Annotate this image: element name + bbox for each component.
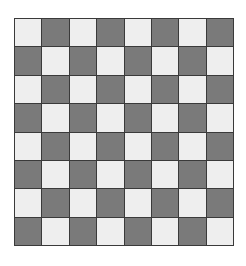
board-square-r1-c2[interactable]	[70, 47, 96, 74]
board-square-r5-c4[interactable]	[125, 161, 151, 188]
board-square-r0-c0[interactable]	[15, 19, 41, 46]
board-square-r6-c2[interactable]	[70, 189, 96, 216]
board-square-r7-c7[interactable]	[207, 218, 233, 245]
board-square-r2-c0[interactable]	[15, 76, 41, 103]
board-square-r1-c7[interactable]	[207, 47, 233, 74]
board-square-r0-c1[interactable]	[42, 19, 68, 46]
board-square-r7-c0[interactable]	[15, 218, 41, 245]
board-square-r4-c0[interactable]	[15, 133, 41, 160]
board-square-r0-c5[interactable]	[152, 19, 178, 46]
board-square-r5-c7[interactable]	[207, 161, 233, 188]
board-square-r4-c6[interactable]	[179, 133, 205, 160]
board-square-r3-c6[interactable]	[179, 104, 205, 131]
board-square-r4-c7[interactable]	[207, 133, 233, 160]
board-square-r0-c4[interactable]	[125, 19, 151, 46]
board-square-r6-c5[interactable]	[152, 189, 178, 216]
board-square-r1-c5[interactable]	[152, 47, 178, 74]
board-square-r2-c4[interactable]	[125, 76, 151, 103]
board-square-r3-c2[interactable]	[70, 104, 96, 131]
board-square-r6-c4[interactable]	[125, 189, 151, 216]
board-square-r6-c0[interactable]	[15, 189, 41, 216]
board-square-r7-c3[interactable]	[97, 218, 123, 245]
board-square-r7-c1[interactable]	[42, 218, 68, 245]
board-square-r4-c2[interactable]	[70, 133, 96, 160]
board-square-r1-c3[interactable]	[97, 47, 123, 74]
board-square-r3-c1[interactable]	[42, 104, 68, 131]
board-square-r6-c6[interactable]	[179, 189, 205, 216]
checkerboard	[14, 18, 234, 246]
board-square-r2-c2[interactable]	[70, 76, 96, 103]
board-square-r0-c2[interactable]	[70, 19, 96, 46]
board-square-r1-c6[interactable]	[179, 47, 205, 74]
board-square-r5-c2[interactable]	[70, 161, 96, 188]
board-square-r2-c1[interactable]	[42, 76, 68, 103]
board-square-r7-c4[interactable]	[125, 218, 151, 245]
board-square-r3-c7[interactable]	[207, 104, 233, 131]
board-square-r5-c6[interactable]	[179, 161, 205, 188]
board-square-r3-c0[interactable]	[15, 104, 41, 131]
board-square-r1-c4[interactable]	[125, 47, 151, 74]
board-square-r5-c1[interactable]	[42, 161, 68, 188]
board-square-r6-c7[interactable]	[207, 189, 233, 216]
board-square-r2-c5[interactable]	[152, 76, 178, 103]
board-square-r2-c7[interactable]	[207, 76, 233, 103]
board-square-r7-c2[interactable]	[70, 218, 96, 245]
board-square-r6-c3[interactable]	[97, 189, 123, 216]
board-square-r0-c3[interactable]	[97, 19, 123, 46]
board-square-r5-c5[interactable]	[152, 161, 178, 188]
board-square-r0-c7[interactable]	[207, 19, 233, 46]
board-square-r1-c1[interactable]	[42, 47, 68, 74]
board-square-r4-c1[interactable]	[42, 133, 68, 160]
board-square-r3-c4[interactable]	[125, 104, 151, 131]
board-square-r4-c3[interactable]	[97, 133, 123, 160]
board-square-r4-c5[interactable]	[152, 133, 178, 160]
board-square-r3-c3[interactable]	[97, 104, 123, 131]
board-square-r6-c1[interactable]	[42, 189, 68, 216]
board-square-r5-c0[interactable]	[15, 161, 41, 188]
board-square-r5-c3[interactable]	[97, 161, 123, 188]
board-square-r0-c6[interactable]	[179, 19, 205, 46]
board-square-r7-c6[interactable]	[179, 218, 205, 245]
board-square-r7-c5[interactable]	[152, 218, 178, 245]
board-square-r4-c4[interactable]	[125, 133, 151, 160]
board-square-r1-c0[interactable]	[15, 47, 41, 74]
board-square-r2-c6[interactable]	[179, 76, 205, 103]
board-square-r3-c5[interactable]	[152, 104, 178, 131]
board-square-r2-c3[interactable]	[97, 76, 123, 103]
